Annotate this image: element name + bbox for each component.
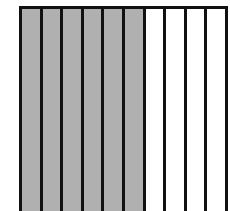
shaded-strip (104, 9, 125, 211)
shaded-strip (125, 9, 146, 211)
unshaded-strip (146, 9, 167, 211)
shaded-strip (43, 9, 64, 211)
shaded-strip (63, 9, 84, 211)
unshaded-strip (207, 9, 228, 211)
unshaded-strip (187, 9, 208, 211)
fraction-diagram (0, 0, 230, 211)
shaded-strip (22, 9, 43, 211)
unshaded-strip (166, 9, 187, 211)
strip-grid (19, 6, 228, 211)
shaded-strip (84, 9, 105, 211)
